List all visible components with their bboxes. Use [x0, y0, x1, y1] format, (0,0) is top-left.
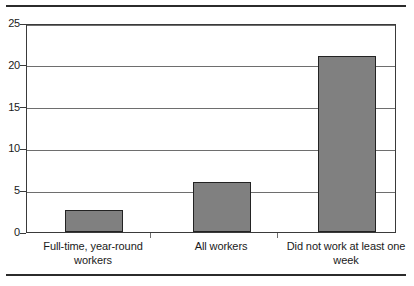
- x-category-label-line: Did not work at least one: [266, 239, 414, 253]
- gridline-25: [27, 25, 395, 26]
- x-category-label-2: Did not work at least oneweek: [266, 239, 414, 267]
- y-tick-label-10: 10: [0, 143, 20, 154]
- top-horizontal-rule: [6, 5, 406, 7]
- y-tick-label-0: 0: [0, 227, 20, 238]
- y-tick-mark-10: [20, 149, 26, 150]
- y-tick-mark-0: [20, 233, 26, 234]
- y-tick-mark-20: [20, 65, 26, 66]
- x-category-label-line: workers: [13, 253, 173, 267]
- x-tick-mark-1: [277, 233, 278, 238]
- y-tick-mark-5: [20, 191, 26, 192]
- y-tick-mark-15: [20, 107, 26, 108]
- bar-0: [65, 210, 123, 232]
- y-tick-label-5: 5: [0, 185, 20, 196]
- bottom-horizontal-rule: [6, 274, 406, 276]
- x-tick-mark-0: [150, 233, 151, 238]
- bar-2: [318, 56, 376, 232]
- x-category-label-line: week: [266, 253, 414, 267]
- y-tick-mark-25: [20, 24, 26, 25]
- bar-1: [193, 182, 251, 232]
- y-tick-label-25: 25: [0, 18, 20, 29]
- y-tick-label-15: 15: [0, 102, 20, 113]
- y-tick-label-20: 20: [0, 60, 20, 71]
- plot-area: [26, 24, 396, 233]
- bar-chart-figure: 0510152025 Full-time, year-roundworkersA…: [0, 0, 414, 286]
